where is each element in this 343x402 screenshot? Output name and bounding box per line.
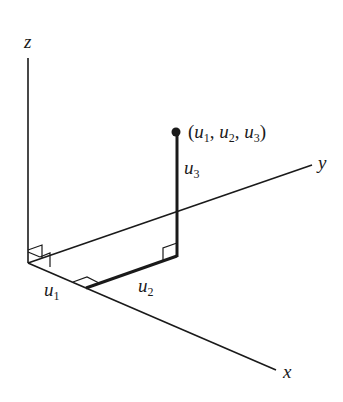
coord-u2: u [219, 121, 229, 142]
coordinate-diagram: z y x (u1, u2, u3) u3 u2 u1 [0, 0, 343, 402]
coord-u3: u [244, 121, 254, 142]
u2-sub: 2 [148, 285, 154, 299]
u1-var: u [44, 279, 54, 300]
sep-1: , [210, 121, 220, 142]
y-axis-label: y [318, 153, 326, 172]
u2-var: u [138, 275, 148, 296]
point-marker [172, 128, 181, 137]
u1-label: u1 [44, 280, 60, 302]
sep-2: , [235, 121, 245, 142]
z-axis-label: z [24, 32, 31, 51]
paren-close: ) [260, 121, 266, 142]
u3-sub: 3 [194, 167, 200, 181]
right-angle-mark-zy [28, 245, 42, 258]
x-axis-label: x [283, 362, 291, 381]
right-angle-mark-u2-x [73, 277, 99, 283]
point-coordinates-label: (u1, u2, u3) [188, 122, 266, 144]
u3-label: u3 [184, 158, 200, 180]
axes-drawing [0, 0, 343, 402]
u2-label: u2 [138, 276, 154, 298]
coord-u1: u [194, 121, 204, 142]
y-axis [28, 165, 312, 263]
u1-sub: 1 [54, 289, 60, 303]
u3-var: u [184, 157, 194, 178]
right-angle-mark-zx [28, 252, 40, 257]
